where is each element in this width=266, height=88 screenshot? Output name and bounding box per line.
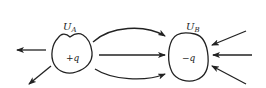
region-b-label: UB [186,21,200,34]
outgoing-down-left-arrow [29,66,51,84]
field-line-bottom-arrow [95,69,165,79]
charge-b-label: −q [182,53,196,63]
incoming-bottom-right-arrow [212,66,246,84]
field-line-top-arrow [93,28,165,42]
charge-a-label: +q [66,53,80,63]
region-a-label: UA [63,21,77,34]
incoming-top-right-arrow [212,31,246,45]
field-lines-diagram: UA UB +q −q [0,0,266,88]
